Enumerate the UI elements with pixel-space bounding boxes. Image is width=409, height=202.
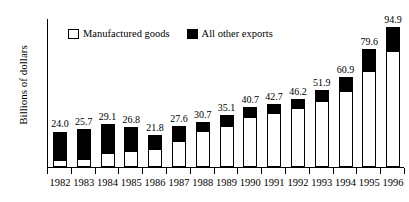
bar-segment-all-other-exports[interactable] — [124, 127, 138, 152]
x-tick-mark — [47, 168, 48, 174]
bar-segment-all-other-exports[interactable] — [53, 132, 67, 161]
x-tick-mark — [95, 168, 96, 174]
bar-group[interactable]: 21.8 — [148, 135, 162, 167]
x-tick-mark — [309, 168, 310, 174]
x-tick-mark — [71, 168, 72, 174]
bar-segment-all-other-exports[interactable] — [101, 124, 115, 154]
bar-segment-manufactured-goods[interactable] — [220, 127, 234, 167]
bar-segment-manufactured-goods[interactable] — [77, 160, 91, 167]
x-tick-mark — [190, 168, 191, 174]
legend-item: Manufactured goods — [68, 28, 170, 39]
bar-segment-manufactured-goods[interactable] — [148, 150, 162, 167]
bar-segment-manufactured-goods[interactable] — [172, 142, 186, 167]
bar-segment-all-other-exports[interactable] — [267, 104, 281, 115]
x-tick-mark — [285, 168, 286, 174]
bar-group[interactable]: 24.0 — [53, 132, 67, 168]
bar-segment-all-other-exports[interactable] — [148, 135, 162, 150]
x-tick-mark — [118, 168, 119, 174]
bar-segment-manufactured-goods[interactable] — [243, 118, 257, 167]
bar-group[interactable]: 40.7 — [243, 107, 257, 167]
bar-segment-all-other-exports[interactable] — [315, 90, 329, 102]
y-axis-title: Billions of dollars — [17, 10, 29, 160]
bar-group[interactable]: 29.1 — [101, 124, 115, 167]
x-tick-mark — [356, 168, 357, 174]
x-tick-mark — [214, 168, 215, 174]
bar-group[interactable]: 26.8 — [124, 127, 138, 167]
bar-segment-all-other-exports[interactable] — [172, 126, 186, 142]
legend-label: All other exports — [202, 28, 273, 39]
bar-segment-manufactured-goods[interactable] — [196, 132, 210, 167]
bar-segment-manufactured-goods[interactable] — [291, 109, 305, 167]
bar-total-label: 79.6 — [353, 37, 385, 47]
x-tick-mark — [380, 168, 381, 174]
bar-group[interactable]: 51.9 — [315, 90, 329, 167]
x-tick-mark — [142, 168, 143, 174]
bar-segment-all-other-exports[interactable] — [77, 129, 91, 160]
x-tick-mark — [333, 168, 334, 174]
bar-total-label: 60.9 — [330, 65, 362, 75]
x-tick-mark — [237, 168, 238, 174]
bar-group[interactable]: 25.7 — [77, 129, 91, 167]
x-tick-mark — [404, 168, 405, 174]
bar-total-label: 21.8 — [139, 123, 171, 133]
plot-area: 24.025.729.126.821.827.630.735.140.742.7… — [47, 19, 404, 167]
bar-segment-manufactured-goods[interactable] — [53, 161, 67, 167]
bar-group[interactable]: 79.6 — [362, 49, 376, 167]
bar-group[interactable]: 35.1 — [220, 115, 234, 167]
bar-segment-manufactured-goods[interactable] — [386, 52, 400, 167]
bar-segment-manufactured-goods[interactable] — [362, 72, 376, 167]
bar-segment-manufactured-goods[interactable] — [124, 152, 138, 167]
bar-segment-manufactured-goods[interactable] — [267, 114, 281, 167]
bar-segment-all-other-exports[interactable] — [339, 77, 353, 92]
bar-group[interactable]: 94.9 — [386, 27, 400, 167]
legend-label: Manufactured goods — [83, 28, 170, 39]
bar-group[interactable]: 42.7 — [267, 104, 281, 167]
bar-group[interactable]: 30.7 — [196, 122, 210, 167]
bar-segment-manufactured-goods[interactable] — [101, 154, 115, 167]
chart-legend: Manufactured goodsAll other exports — [68, 28, 273, 39]
bar-segment-all-other-exports[interactable] — [362, 49, 376, 72]
bar-group[interactable]: 46.2 — [291, 99, 305, 167]
x-tick-mark — [166, 168, 167, 174]
bar-total-label: 51.9 — [306, 78, 338, 88]
bar-segment-manufactured-goods[interactable] — [315, 102, 329, 167]
bar-segment-all-other-exports[interactable] — [386, 27, 400, 53]
bar-segment-manufactured-goods[interactable] — [339, 92, 353, 167]
bar-segment-all-other-exports[interactable] — [243, 107, 257, 119]
bar-total-label: 94.9 — [377, 15, 409, 25]
x-axis-line — [47, 167, 404, 168]
legend-swatch-white — [68, 29, 79, 39]
bar-segment-all-other-exports[interactable] — [220, 115, 234, 127]
bar-segment-all-other-exports[interactable] — [196, 122, 210, 133]
x-tick-mark — [261, 168, 262, 174]
bar-segment-all-other-exports[interactable] — [291, 99, 305, 110]
bar-group[interactable]: 60.9 — [339, 77, 353, 167]
legend-swatch-black — [187, 29, 198, 39]
bar-group[interactable]: 27.6 — [172, 126, 186, 167]
y-axis-line — [47, 19, 48, 168]
legend-item: All other exports — [187, 28, 273, 39]
x-tick-label: 1996 — [376, 177, 409, 188]
exports-stacked-bar-chart: Billions of dollars 01020304050607080901… — [0, 0, 409, 202]
